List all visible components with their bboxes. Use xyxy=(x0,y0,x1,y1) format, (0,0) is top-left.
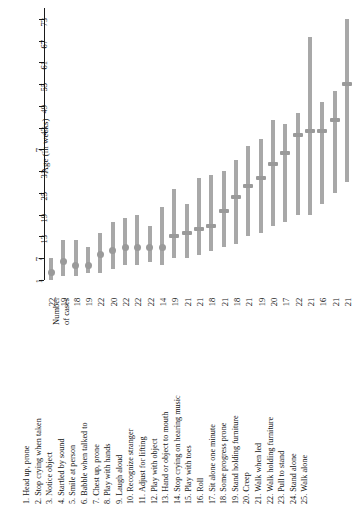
case-count: 14 xyxy=(158,295,168,309)
list-item-number: 7. xyxy=(92,498,101,504)
case-count: 20 xyxy=(269,295,279,309)
list-item-label: Roll xyxy=(196,478,205,492)
case-count: 22 xyxy=(133,295,143,309)
axis-tick-label: 1 xyxy=(34,279,44,283)
list-item-label: Adjust for lifting xyxy=(138,437,147,493)
range-series xyxy=(45,8,352,280)
list-item: 14. Stop crying on hearing music xyxy=(173,395,182,504)
list-item: 15. Play with toes xyxy=(184,445,193,504)
case-count: 22 xyxy=(96,295,106,309)
list-item-number: 10. xyxy=(126,494,135,504)
list-item-label: Some progress prone xyxy=(219,423,228,492)
median-marker xyxy=(206,224,216,228)
case-count: 18 xyxy=(232,295,242,309)
range-bar xyxy=(74,240,78,276)
list-item: 12. Play with object xyxy=(150,439,159,505)
list-item-label: Head up, prone xyxy=(22,446,31,496)
list-item-label: Stand holding furniture xyxy=(231,415,240,491)
median-marker xyxy=(243,184,253,188)
case-count: 19 xyxy=(84,295,94,309)
median-marker xyxy=(194,227,204,231)
case-count: 19 xyxy=(170,295,180,309)
list-item: 20. Creep xyxy=(242,472,251,504)
list-item-label: Babble when talked to xyxy=(80,422,89,495)
median-marker xyxy=(60,258,67,265)
list-item-number: 12. xyxy=(150,494,159,504)
case-count: 19 xyxy=(59,295,69,309)
list-item-number: 16. xyxy=(196,494,205,504)
median-marker xyxy=(305,129,315,133)
median-marker xyxy=(268,162,278,166)
median-marker xyxy=(85,262,92,269)
median-marker xyxy=(231,195,241,199)
list-item: 25. Walk alone xyxy=(300,455,309,504)
case-count: 20 xyxy=(109,295,119,309)
list-item-number: 22. xyxy=(266,494,275,504)
list-item: 24. Stand alone xyxy=(289,453,298,504)
case-count: 21 xyxy=(306,295,316,309)
chart-plot-area: 17131925317434955616773 Age (in weeks) xyxy=(44,8,352,280)
list-item: 11. Adjust for lifting xyxy=(138,437,147,504)
list-item-number: 23. xyxy=(277,494,286,504)
list-item: 5. Smile at person xyxy=(68,445,77,504)
list-item-label: Laugh aloud xyxy=(115,455,124,496)
list-item-number: 15. xyxy=(184,494,193,504)
list-item: 10. Recognize stranger xyxy=(126,429,135,504)
median-marker xyxy=(97,251,104,258)
list-item-label: Play with toes xyxy=(184,445,193,491)
list-item: 21. Walk when led xyxy=(254,443,263,504)
case-count: 21 xyxy=(195,295,205,309)
list-item-number: 11. xyxy=(138,494,147,504)
range-bar xyxy=(345,19,349,182)
list-item-label: Chest up, prone xyxy=(92,444,101,496)
list-item-number: 17. xyxy=(208,494,217,504)
list-item-number: 25. xyxy=(300,494,309,504)
list-item: 8. Play with hands xyxy=(103,444,112,505)
list-item-label: Startled by sound xyxy=(57,439,66,496)
case-count: 22 xyxy=(146,295,156,309)
list-item: 13. Hand or object to mouth xyxy=(161,412,170,504)
list-item: 23. Pull to stand xyxy=(277,451,286,504)
case-count: 21 xyxy=(183,295,193,309)
milestone-list: 1. Head up, prone2. Stop crying when tak… xyxy=(0,336,361,508)
list-item-label: Stop crying when taken xyxy=(34,418,43,496)
list-item-number: 3. xyxy=(45,498,54,504)
list-item-number: 1. xyxy=(22,498,31,504)
range-bar xyxy=(271,120,275,225)
list-item-label: Smile at person xyxy=(68,445,77,496)
range-bar xyxy=(197,178,201,254)
list-item-label: Walk holding furniture xyxy=(266,417,275,492)
list-item-number: 14. xyxy=(173,494,182,504)
median-marker xyxy=(280,151,290,155)
list-item: 9. Laugh aloud xyxy=(115,455,124,504)
list-item-number: 4. xyxy=(57,498,66,504)
list-item-number: 21. xyxy=(254,494,263,504)
list-item-number: 5. xyxy=(68,498,77,504)
list-item-number: 8. xyxy=(103,498,112,504)
case-count: 21 xyxy=(331,295,341,309)
range-bar xyxy=(320,102,324,204)
case-count: 21 xyxy=(220,295,230,309)
case-count: 19 xyxy=(257,295,267,309)
range-bar xyxy=(209,175,213,251)
median-marker xyxy=(159,244,166,251)
median-marker xyxy=(256,176,266,180)
list-item: 17. Sit alone one minute xyxy=(208,424,217,504)
list-item: 4. Startled by sound xyxy=(57,439,66,505)
range-bar xyxy=(172,189,176,258)
list-item-label: Walk when led xyxy=(254,443,263,492)
list-item: 3. Notice object xyxy=(45,452,54,504)
range-bar xyxy=(111,222,115,269)
range-bar xyxy=(296,113,300,215)
list-item-number: 6. xyxy=(80,498,89,504)
list-item-label: Creep xyxy=(242,472,251,492)
case-count: 16 xyxy=(318,295,328,309)
case-count: 22 xyxy=(47,295,57,309)
median-marker xyxy=(169,234,179,238)
list-item-label: Walk alone xyxy=(300,455,309,492)
case-count: 21 xyxy=(343,295,353,309)
median-marker xyxy=(146,244,153,251)
list-item-label: Play with object xyxy=(150,439,159,492)
list-item-label: Sit alone one minute xyxy=(208,424,217,492)
list-item: 18. Some progress prone xyxy=(219,423,228,504)
